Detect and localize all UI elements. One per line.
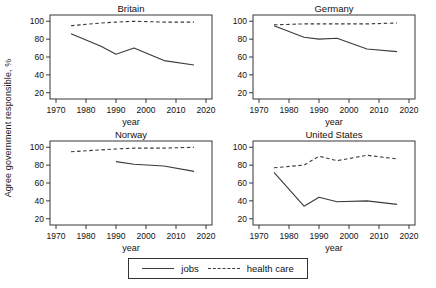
x-tick-label: 2020	[400, 231, 419, 241]
plot-frame	[253, 141, 415, 225]
plot-frame	[50, 141, 212, 225]
charts-area: Agree government responsible, % Britain2…	[0, 2, 436, 254]
y-tick-label: 20	[238, 214, 248, 224]
x-tick-label: 1990	[107, 105, 126, 115]
chart-svg-united-states: United States204060801001970198019902000…	[219, 128, 422, 254]
health-care-line	[274, 155, 397, 168]
legend-jobs-label: jobs	[181, 263, 198, 274]
legend-row: jobs health care	[0, 258, 436, 279]
panel-title: Germany	[314, 3, 353, 14]
x-axis-label: year	[325, 117, 343, 127]
plot-frame	[50, 15, 212, 99]
y-tick-label: 60	[35, 178, 45, 188]
y-tick-label: 40	[35, 70, 45, 80]
y-tick-label: 40	[238, 70, 248, 80]
x-tick-label: 1990	[107, 231, 126, 241]
y-tick-label: 60	[35, 52, 45, 62]
chart-svg-norway: Norway2040608010019701980199020002010202…	[16, 128, 219, 254]
x-tick-label: 2020	[400, 105, 419, 115]
x-tick-label: 2010	[370, 105, 389, 115]
y-tick-label: 20	[35, 88, 45, 98]
x-tick-label: 1970	[250, 105, 269, 115]
x-tick-label: 1990	[310, 231, 329, 241]
jobs-line	[116, 162, 194, 172]
x-tick-label: 2010	[167, 231, 186, 241]
jobs-line	[274, 172, 397, 206]
y-tick-label: 100	[233, 16, 247, 26]
x-axis-label: year	[122, 117, 140, 127]
x-tick-label: 1980	[77, 231, 96, 241]
x-tick-label: 2020	[197, 105, 216, 115]
y-tick-label: 60	[238, 52, 248, 62]
jobs-line	[274, 26, 397, 52]
x-tick-label: 1970	[47, 105, 66, 115]
legend-health-label: health care	[247, 263, 294, 274]
y-tick-label: 40	[238, 196, 248, 206]
plot-frame	[253, 15, 415, 99]
x-tick-label: 1980	[280, 105, 299, 115]
x-tick-label: 2000	[137, 231, 156, 241]
x-tick-label: 1980	[280, 231, 299, 241]
panel-title: United States	[305, 129, 362, 140]
y-tick-label: 80	[35, 34, 45, 44]
x-tick-label: 2020	[197, 231, 216, 241]
figure: Agree government responsible, % Britain2…	[0, 0, 436, 288]
chart-germany: Germany204060801001970198019902000201020…	[219, 2, 422, 128]
chart-united-states: United States204060801001970198019902000…	[219, 128, 422, 254]
x-tick-label: 1970	[47, 231, 66, 241]
x-axis-label: year	[325, 243, 343, 253]
panel-title: Norway	[115, 129, 147, 140]
x-tick-label: 1970	[250, 231, 269, 241]
y-tick-label: 80	[238, 160, 248, 170]
x-tick-label: 2000	[340, 231, 359, 241]
x-tick-label: 2010	[370, 231, 389, 241]
x-tick-label: 2000	[137, 105, 156, 115]
y-tick-label: 20	[35, 214, 45, 224]
jobs-line	[71, 34, 194, 65]
x-tick-label: 2010	[167, 105, 186, 115]
legend: jobs health care	[128, 258, 307, 279]
panel-grid: Britain204060801001970198019902000201020…	[16, 2, 422, 254]
health-care-line	[71, 147, 194, 151]
y-tick-label: 100	[30, 16, 44, 26]
panel-title: Britain	[118, 3, 145, 14]
legend-item-jobs: jobs	[142, 263, 198, 274]
chart-britain: Britain204060801001970198019902000201020…	[16, 2, 219, 128]
health-care-line	[71, 21, 194, 25]
chart-svg-germany: Germany204060801001970198019902000201020…	[219, 2, 422, 128]
y-tick-label: 80	[238, 34, 248, 44]
y-tick-label: 40	[35, 196, 45, 206]
y-tick-label: 60	[238, 178, 248, 188]
y-tick-label: 80	[35, 160, 45, 170]
x-tick-label: 1980	[77, 105, 96, 115]
x-axis-label: year	[122, 243, 140, 253]
y-tick-label: 20	[238, 88, 248, 98]
shared-y-axis: Agree government responsible, %	[0, 2, 16, 254]
legend-item-health-care: health care	[208, 263, 294, 274]
dashed-line-sample	[208, 268, 240, 269]
chart-norway: Norway2040608010019701980199020002010202…	[16, 128, 219, 254]
y-tick-label: 100	[233, 142, 247, 152]
health-care-line	[274, 23, 397, 25]
solid-line-sample	[142, 268, 174, 269]
y-tick-label: 100	[30, 142, 44, 152]
x-tick-label: 2000	[340, 105, 359, 115]
y-axis-label: Agree government responsible, %	[3, 59, 13, 198]
x-tick-label: 1990	[310, 105, 329, 115]
chart-svg-britain: Britain204060801001970198019902000201020…	[16, 2, 219, 128]
